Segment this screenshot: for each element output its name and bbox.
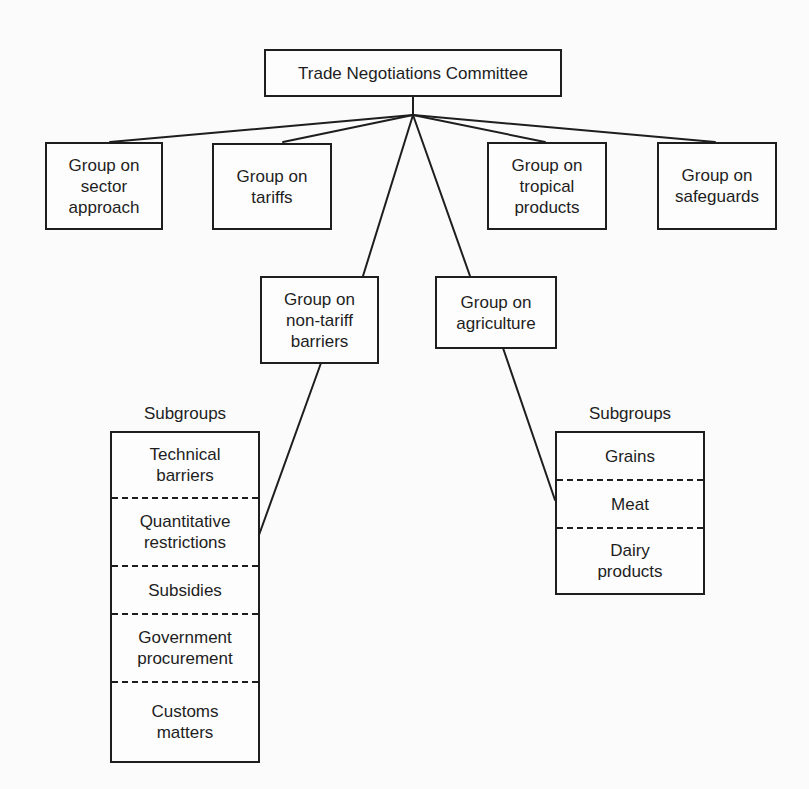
subgroup-government-procurement: Government procurement	[112, 615, 258, 681]
node-label: Group on tropical products	[512, 155, 583, 218]
node-group-tropical-products: Group on tropical products	[487, 142, 607, 230]
edge-to-agriculture	[413, 115, 470, 276]
node-label: Group on tariffs	[237, 166, 308, 208]
node-group-sector-approach: Group on sector approach	[45, 142, 163, 230]
node-label: Group on agriculture	[456, 292, 535, 334]
subgroup-dairy-products: Dairy products	[557, 529, 703, 593]
agriculture-subgroups-box: Grains Meat Dairy products	[555, 431, 705, 595]
edge-to-tropical	[413, 115, 545, 142]
subgroup-customs-matters: Customs matters	[112, 683, 258, 761]
node-label: Group on sector approach	[69, 155, 140, 218]
node-label: Group on non-tariff barriers	[284, 289, 355, 352]
edge-agriculture-to-subgroups	[503, 348, 555, 500]
non-tariff-subgroups-title: Subgroups	[110, 404, 260, 424]
edge-to-non-tariff	[363, 115, 413, 276]
subgroup-technical-barriers: Technical barriers	[112, 433, 258, 497]
subgroup-grains: Grains	[557, 433, 703, 479]
node-group-agriculture: Group on agriculture	[435, 276, 557, 349]
subgroup-meat: Meat	[557, 481, 703, 527]
node-group-tariffs: Group on tariffs	[212, 143, 332, 230]
edge-to-sector	[110, 115, 413, 142]
non-tariff-subgroups-box: Technical barriers Quantitative restrict…	[110, 431, 260, 763]
root-node-label: Trade Negotiations Committee	[298, 63, 528, 84]
edge-non-tariff-to-subgroups	[259, 363, 321, 535]
root-node-trade-negotiations-committee: Trade Negotiations Committee	[264, 49, 562, 97]
node-group-safeguards: Group on safeguards	[657, 142, 777, 230]
node-group-non-tariff-barriers: Group on non-tariff barriers	[260, 276, 379, 364]
edge-to-tariffs	[283, 115, 413, 142]
subgroup-quantitative-restrictions: Quantitative restrictions	[112, 499, 258, 565]
node-label: Group on safeguards	[675, 165, 759, 207]
subgroup-subsidies: Subsidies	[112, 567, 258, 613]
org-chart-diagram: Trade Negotiations Committee Group on se…	[0, 0, 809, 789]
agriculture-subgroups-title: Subgroups	[555, 404, 705, 424]
edge-to-safeguards	[413, 115, 715, 142]
